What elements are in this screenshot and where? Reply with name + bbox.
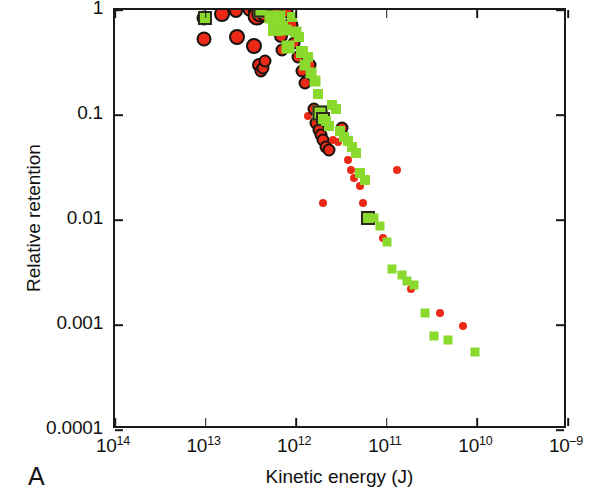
figure-panel-a: 1014101310121011101010–910.10.010.0010.0…	[0, 0, 599, 504]
data-point-square	[313, 89, 323, 99]
y-axis-tick	[556, 219, 564, 221]
x-axis-tick	[205, 10, 207, 18]
x-axis-tick	[477, 418, 479, 426]
data-point-square	[282, 41, 295, 54]
data-point-circle	[436, 309, 444, 317]
data-point-circle	[319, 199, 327, 207]
data-point-circle	[322, 144, 335, 157]
x-axis-tick	[295, 10, 297, 18]
y-axis-tick	[556, 324, 564, 326]
data-point-circle	[229, 10, 243, 18]
x-axis-tick	[114, 418, 116, 426]
plot-frame	[113, 8, 566, 428]
x-axis-tick-label: 1010	[458, 435, 492, 457]
x-axis-tick-label: 1011	[368, 435, 401, 457]
data-point-square	[375, 221, 384, 230]
data-point-circle	[229, 29, 245, 45]
data-point-circle	[259, 54, 272, 67]
data-point-circle	[459, 322, 467, 330]
data-point-square	[294, 32, 304, 42]
panel-label: A	[28, 462, 45, 491]
data-point-square	[387, 265, 396, 274]
data-point-circle	[393, 166, 401, 174]
y-axis-tick	[556, 9, 564, 11]
data-point-square	[430, 332, 439, 341]
data-point-square	[303, 52, 313, 62]
data-point-square	[310, 76, 321, 87]
data-point-circle	[359, 199, 367, 207]
data-point-square	[360, 175, 370, 185]
y-axis-tick	[115, 9, 123, 11]
data-point-square	[420, 309, 429, 318]
x-axis-tick	[114, 10, 116, 18]
scatter-plot-area	[115, 10, 564, 426]
data-point-square	[351, 148, 361, 158]
data-point-square	[324, 121, 334, 131]
x-axis-tick-label: 1012	[277, 435, 311, 457]
x-axis-tick	[205, 418, 207, 426]
y-axis-tick	[115, 324, 123, 326]
data-point-square	[410, 281, 419, 290]
y-axis-tick	[556, 429, 564, 431]
x-axis-tick-label: 1013	[186, 435, 220, 457]
x-axis-tick	[477, 10, 479, 18]
x-axis-tick	[386, 418, 388, 426]
x-axis-tick	[567, 418, 569, 426]
data-point-square	[382, 237, 391, 246]
data-point-circle	[196, 31, 211, 46]
x-axis-title: Kinetic energy (J)	[113, 466, 566, 488]
data-point-square	[471, 348, 480, 357]
data-point-circle	[246, 38, 262, 54]
x-axis-tick	[567, 10, 569, 18]
x-axis-tick	[295, 418, 297, 426]
y-axis-tick	[556, 114, 564, 116]
data-point-circle	[214, 10, 230, 22]
data-point-square	[331, 104, 341, 114]
y-axis-tick	[115, 219, 123, 221]
data-point-square	[444, 335, 453, 344]
y-axis-tick	[115, 429, 123, 431]
x-axis-tick	[386, 10, 388, 18]
x-axis-tick-label: 10–9	[549, 435, 583, 457]
y-axis-tick	[115, 114, 123, 116]
y-axis-title: Relative retention	[14, 8, 54, 428]
